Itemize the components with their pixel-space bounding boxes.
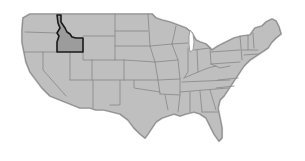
- us-map-container: United States map Idaho: [0, 0, 305, 161]
- us-map: [0, 0, 305, 161]
